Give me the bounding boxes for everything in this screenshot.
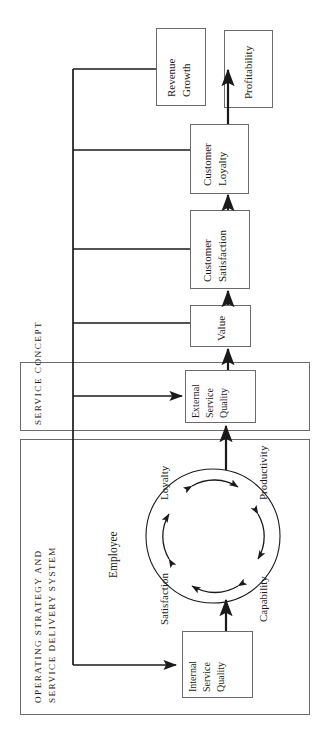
employee-cycle-center-label: Employee — [107, 531, 120, 578]
box-label-revenue-growth-line1: Revenue — [165, 58, 177, 97]
cycle-node-satisfaction: Satisfaction — [158, 573, 170, 625]
box-label-customer-loyalty-line2: Loyalty — [216, 151, 228, 186]
connector-branches — [73, 69, 190, 323]
box-label-internal-service-quality-line3: Quality — [215, 662, 226, 692]
diagram-canvas: SERVICE CONCEPT OPERATING STRATEGY AND S… — [0, 0, 327, 729]
group-label-operating-strategy-line1: OPERATING STRATEGY AND — [33, 549, 43, 703]
cycle-node-loyalty: Loyalty — [158, 465, 170, 500]
cycle-node-capability: Capability — [257, 576, 269, 622]
box-customer-satisfaction: Customer Satisfaction — [191, 211, 250, 289]
box-value: Value — [191, 306, 251, 347]
box-customer-loyalty: Customer Loyalty — [191, 125, 249, 194]
box-label-customer-satisfaction-line1: Customer — [201, 239, 213, 282]
cycle-node-productivity: Productivity — [257, 445, 269, 500]
box-label-customer-satisfaction-line2: Satisfaction — [216, 230, 228, 282]
box-profitability: Profitability — [225, 31, 273, 108]
cycle-arc-arrows — [163, 480, 264, 592]
box-label-external-service-quality-line3: Quality — [218, 388, 229, 418]
group-service-concept: SERVICE CONCEPT — [21, 321, 310, 431]
box-internal-service-quality: Internal Service Quality — [183, 632, 253, 698]
box-label-internal-service-quality-line2: Service — [201, 661, 212, 692]
box-label-external-service-quality-line2: Service — [204, 387, 215, 418]
box-label-external-service-quality-line1: External — [190, 384, 201, 418]
box-label-profitability: Profitability — [242, 45, 254, 99]
employee-cycle: Employee Loyalty Productivity Capability… — [107, 445, 280, 625]
box-label-revenue-growth-line2: Growth — [180, 63, 192, 97]
box-label-customer-loyalty-line1: Customer — [201, 143, 213, 186]
box-external-service-quality: External Service Quality — [186, 371, 256, 423]
service-profit-chain-diagram: SERVICE CONCEPT OPERATING STRATEGY AND S… — [0, 0, 327, 729]
box-label-value: Value — [215, 316, 227, 341]
box-revenue-growth: Revenue Growth — [157, 29, 206, 106]
box-label-internal-service-quality-line1: Internal — [187, 661, 198, 692]
group-label-service-concept: SERVICE CONCEPT — [33, 321, 43, 425]
group-label-operating-strategy-line2: SERVICE DELIVERY SYSTEM — [47, 546, 57, 703]
